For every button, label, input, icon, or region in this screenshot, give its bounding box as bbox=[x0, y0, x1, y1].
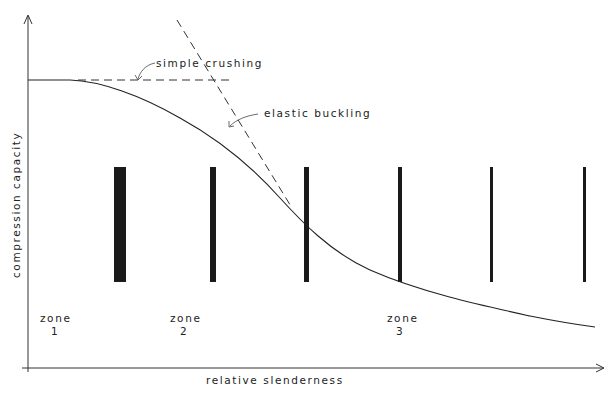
column-6 bbox=[583, 167, 586, 282]
y-axis-label: compression capacity bbox=[10, 132, 22, 278]
x-axis-label: relative slenderness bbox=[206, 374, 344, 386]
zone-2-number: 2 bbox=[180, 325, 188, 337]
column-buckling-diagram: simple crushing elastic buckling compres… bbox=[0, 0, 613, 393]
zone-3-label: zone bbox=[387, 312, 418, 324]
axes bbox=[22, 15, 604, 372]
column-5 bbox=[490, 167, 493, 282]
columns bbox=[114, 167, 586, 282]
column-1 bbox=[114, 167, 126, 282]
column-4 bbox=[398, 167, 402, 282]
column-2 bbox=[210, 167, 216, 282]
zone-2-label: zone bbox=[170, 312, 201, 324]
zone-1-number: 1 bbox=[51, 325, 59, 337]
elastic-buckling-leader bbox=[230, 114, 258, 126]
simple-crushing-leader bbox=[138, 63, 155, 79]
leader-arrow-icon bbox=[229, 121, 234, 127]
zone-3-number: 3 bbox=[396, 325, 404, 337]
elastic-buckling-label: elastic buckling bbox=[264, 107, 371, 119]
simple-crushing-label: simple crushing bbox=[156, 57, 263, 69]
zone-1-label: zone bbox=[40, 312, 71, 324]
